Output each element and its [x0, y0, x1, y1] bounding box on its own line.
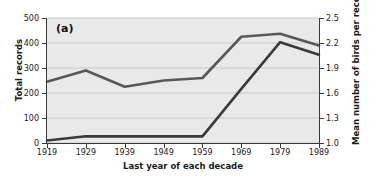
plot-area: (a) [47, 18, 319, 143]
y-axis-left-tick-mark [42, 93, 46, 94]
y-axis-left-spine [46, 18, 47, 144]
y-axis-left-tick-mark [42, 18, 46, 19]
chart-figure: (a) 0100200300400500 1.01.31.61.92.22.5 … [0, 0, 373, 190]
x-axis-title: Last year of each decade [47, 161, 319, 171]
y-axis-right-tick-label: 2.5 [326, 14, 352, 23]
x-axis-spine [46, 143, 320, 144]
y-axis-left-tick-mark [42, 68, 46, 69]
x-axis-tick-label: 1969 [223, 148, 259, 157]
y-axis-right-tick-mark [320, 143, 324, 144]
y-axis-right-tick-label: 1.0 [326, 139, 352, 148]
panel-label: (a) [56, 22, 73, 35]
y-axis-right-tick-label: 1.9 [326, 64, 352, 73]
x-axis-tick-label: 1979 [262, 148, 298, 157]
series-line [47, 34, 319, 87]
data-series-group [47, 34, 319, 141]
x-axis-tick-label: 1949 [146, 148, 182, 157]
x-axis-tick-label: 1919 [29, 148, 65, 157]
y-axis-left-tick-mark [42, 118, 46, 119]
y-axis-right-tick-label: 2.2 [326, 39, 352, 48]
x-axis-tick-label: 1989 [301, 148, 337, 157]
y-axis-left-tick-label: 0 [13, 139, 39, 148]
x-axis-tick-label: 1959 [184, 148, 220, 157]
y-axis-left-tick-mark [42, 143, 46, 144]
y-axis-right-tick-label: 1.6 [326, 89, 352, 98]
y-axis-right-tick-label: 1.3 [326, 114, 352, 123]
x-axis-tick-label: 1939 [107, 148, 143, 157]
y-axis-right-spine [319, 18, 320, 144]
y-axis-left-title: Total records [14, 15, 24, 125]
series-line [47, 42, 319, 140]
y-axis-right-title: Mean number of birds per record [351, 0, 361, 145]
y-axis-right-tick-mark [320, 118, 324, 119]
y-axis-right-tick-mark [320, 68, 324, 69]
y-axis-right-tick-mark [320, 43, 324, 44]
chart-plot-svg [47, 18, 319, 143]
y-axis-right-tick-mark [320, 18, 324, 19]
y-axis-left-tick-mark [42, 43, 46, 44]
x-axis-tick-label: 1929 [68, 148, 104, 157]
y-axis-right-tick-mark [320, 93, 324, 94]
